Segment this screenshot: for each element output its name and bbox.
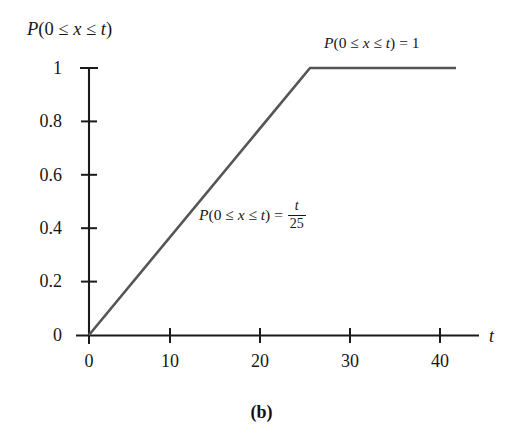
y-tick-label-0_8: 0.8 xyxy=(10,112,62,130)
fraction-denominator: 25 xyxy=(288,217,306,232)
y-tick-label-1: 1 xyxy=(10,59,62,77)
annotation-ramp: P(0 ≤ x ≤ t) = t 25 xyxy=(199,199,307,231)
figure-panel: P(0 ≤ x ≤ t) t 1 0.8 0.6 0.4 0.2 0 0 10 … xyxy=(0,0,523,445)
x-tick-label-10: 10 xyxy=(147,352,193,370)
x-axis-title: t xyxy=(489,327,494,345)
fraction-numerator: t xyxy=(288,199,306,214)
x-tick-label-30: 30 xyxy=(327,352,373,370)
x-tick-label-40: 40 xyxy=(417,352,463,370)
annotation-plateau: P(0 ≤ x ≤ t) = 1 xyxy=(324,35,420,51)
x-tick-label-0: 0 xyxy=(66,352,112,370)
y-tick-label-0_2: 0.2 xyxy=(10,272,62,290)
figure-caption: (b) xyxy=(0,402,523,423)
fraction-t-over-25: t 25 xyxy=(288,199,306,231)
x-tick-label-20: 20 xyxy=(237,352,283,370)
y-tick-label-0: 0 xyxy=(10,326,62,344)
y-tick-label-0_4: 0.4 xyxy=(10,219,62,237)
y-axis-title: P(0 ≤ x ≤ t) xyxy=(27,20,112,39)
y-tick-label-0_6: 0.6 xyxy=(10,166,62,184)
